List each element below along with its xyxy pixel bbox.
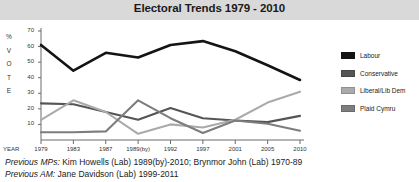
legend-item[interactable]: Conservative <box>341 65 419 83</box>
legend-swatch-icon <box>341 87 355 94</box>
legend-item-label: Conservative <box>360 70 398 77</box>
x-axis-tick-label: 2010 <box>280 146 320 152</box>
x-axis-label: YEAR <box>3 146 19 152</box>
legend-swatch-icon <box>341 105 355 112</box>
legend-swatch-icon <box>341 70 355 77</box>
footnote-line: Previous MPs: Kim Howells (Lab) 1989(by)… <box>5 157 419 169</box>
legend-item-label: Plaid Cymru <box>360 105 395 112</box>
legend-item[interactable]: Labour <box>341 47 419 65</box>
legend-swatch-icon <box>341 52 355 59</box>
series-line-labour <box>41 41 300 80</box>
footnote-lead: Previous MPs: <box>5 157 60 167</box>
legend-item[interactable]: Liberal/Lib Dem <box>341 82 419 100</box>
page-title: Electoral Trends 1979 - 2010 <box>0 2 419 14</box>
footnote-line: Previous AM: Jane Davidson (Lab) 1999-20… <box>5 169 419 181</box>
legend-item-label: Labour <box>360 52 380 59</box>
series-line-liberal-lib-dem <box>41 92 300 134</box>
legend-item-label: Liberal/Lib Dem <box>360 87 406 94</box>
footnote-lead: Previous AM: <box>5 169 55 179</box>
footnote-text: Jane Davidson (Lab) 1999-2011 <box>55 169 178 179</box>
footnotes: Previous MPs: Kim Howells (Lab) 1989(by)… <box>5 157 419 180</box>
chart-legend: LabourConservativeLiberal/Lib DemPlaid C… <box>341 47 419 117</box>
legend-item[interactable]: Plaid Cymru <box>341 100 419 118</box>
footnote-text: Kim Howells (Lab) 1989(by)-2010; Brynmor… <box>60 157 302 167</box>
